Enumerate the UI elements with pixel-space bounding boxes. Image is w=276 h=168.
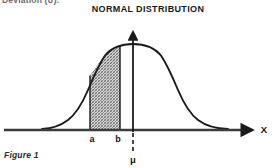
normal-curve <box>42 44 228 129</box>
normal-distribution-plot: a b μ X <box>0 0 276 168</box>
mean-mu-label: μ <box>130 154 136 165</box>
shaded-area-region <box>90 45 120 130</box>
tick-label-a: a <box>89 134 95 144</box>
figure-page: Deviation (σ). NORMAL DISTRIBUTION <box>0 0 276 168</box>
tick-label-b: b <box>115 134 121 144</box>
figure-caption: Figure 1 <box>4 150 39 160</box>
x-axis-label: X <box>261 124 268 135</box>
